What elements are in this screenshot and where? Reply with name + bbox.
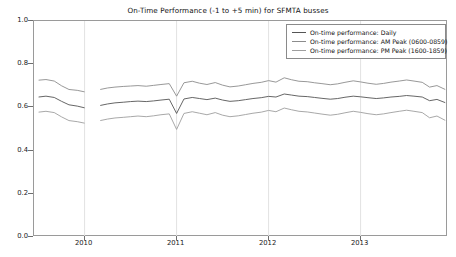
x-tick-label: 2012 (259, 239, 276, 247)
y-tick-label: 0.8 (0, 59, 28, 67)
legend-item-am-peak: On-time performance: AM Peak (0600-0859) (290, 37, 441, 46)
x-tick-mark (176, 236, 177, 240)
y-tick-mark (28, 150, 33, 151)
y-tick-label: 1.0 (0, 16, 28, 24)
y-tick-label: 0.0 (0, 232, 28, 240)
x-tick-mark (268, 236, 269, 240)
x-tick-label: 2010 (75, 239, 92, 247)
x-tick-mark (84, 236, 85, 240)
legend-line-swatch-pm-peak (292, 50, 306, 51)
series-line-1 (39, 80, 85, 92)
legend-item-daily: On-time performance: Daily (290, 28, 441, 37)
y-tick-mark (28, 193, 33, 194)
y-tick-mark (28, 63, 33, 64)
chart-legend: On-time performance: Daily On-time perfo… (286, 24, 446, 59)
series-line-0 (100, 94, 445, 113)
y-tick-label: 0.2 (0, 189, 28, 197)
y-tick-mark (28, 236, 33, 237)
series-line-0 (39, 96, 85, 108)
x-tick-label: 2011 (167, 239, 184, 247)
x-tick-mark (360, 236, 361, 240)
legend-label-pm-peak: On-time performance: PM Peak (1600-1859) (310, 46, 447, 55)
series-line-2 (39, 111, 85, 123)
legend-label-am-peak: On-time performance: AM Peak (0600-0859) (310, 37, 447, 46)
x-tick-label: 2013 (351, 239, 368, 247)
y-tick-mark (28, 20, 33, 21)
legend-line-swatch-daily (292, 32, 306, 33)
series-line-2 (100, 108, 445, 129)
legend-line-swatch-am-peak (292, 41, 306, 42)
legend-item-pm-peak: On-time performance: PM Peak (1600-1859) (290, 46, 441, 55)
y-tick-mark (28, 106, 33, 107)
y-tick-label: 0.6 (0, 102, 28, 110)
y-tick-label: 0.4 (0, 146, 28, 154)
series-line-1 (100, 78, 445, 96)
chart-figure: On-Time Performance (-1 to +5 min) for S… (0, 0, 456, 257)
legend-label-daily: On-time performance: Daily (310, 28, 396, 37)
chart-title: On-Time Performance (-1 to +5 min) for S… (0, 6, 456, 15)
